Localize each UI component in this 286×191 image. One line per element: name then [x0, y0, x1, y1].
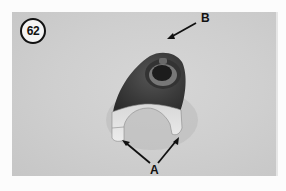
pivot-hole [152, 65, 172, 81]
figure-page: 62 B A [0, 0, 286, 191]
callout-label-b: B [201, 11, 210, 25]
pin-b [159, 58, 167, 64]
callout-label-a: A [150, 163, 159, 177]
figure-number-badge: 62 [20, 18, 46, 44]
